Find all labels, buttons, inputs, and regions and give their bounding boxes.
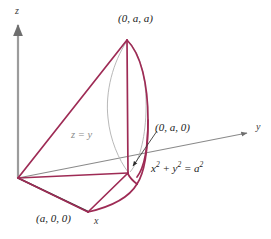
solid-edges — [18, 40, 148, 212]
y-axis — [18, 133, 247, 178]
cylinder-lower-front-curve — [128, 174, 137, 184]
figure-graphic — [0, 0, 271, 239]
base-radius-x — [18, 178, 88, 212]
label-plane-equation: z = y — [71, 130, 92, 141]
vertical-edge-apex-to-base — [127, 40, 128, 174]
label-axis-y: y — [256, 122, 260, 132]
label-cylinder-equation: x2 + y2 = a2 — [151, 163, 203, 174]
plane-base-edge — [18, 173, 128, 178]
label-point-y-axis: (0, a, 0) — [155, 122, 190, 133]
label-point-x-axis: (a, 0, 0) — [36, 213, 71, 224]
label-axis-x: x — [94, 216, 98, 226]
hidden-back-arc-upper — [127, 40, 146, 172]
figure-canvas: (0, a, a) (0, a, 0) (a, 0, 0) z y x z = … — [0, 0, 271, 239]
label-axis-z: z — [15, 6, 19, 16]
plane-slant-edge — [18, 40, 127, 178]
label-point-apex: (0, a, a) — [118, 13, 153, 24]
axis-group — [18, 25, 247, 212]
